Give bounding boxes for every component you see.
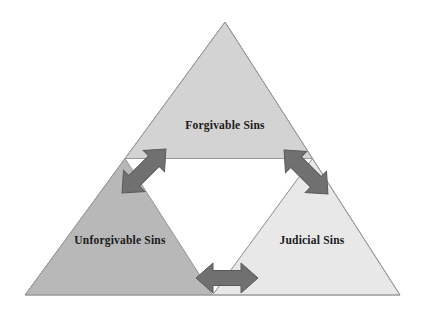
diagram-canvas: Forgivable Sins Unforgivable Sins Judici… <box>0 0 448 315</box>
segment-judicial-label: Judicial Sins <box>280 234 345 246</box>
segment-forgivable-shape <box>125 22 313 159</box>
segment-unforgivable-label: Unforgivable Sins <box>74 234 166 247</box>
segment-forgivable-sins[interactable]: Forgivable Sins <box>125 22 313 159</box>
sins-triangle-diagram: Forgivable Sins Unforgivable Sins Judici… <box>0 0 448 315</box>
segment-forgivable-label: Forgivable Sins <box>185 119 265 132</box>
